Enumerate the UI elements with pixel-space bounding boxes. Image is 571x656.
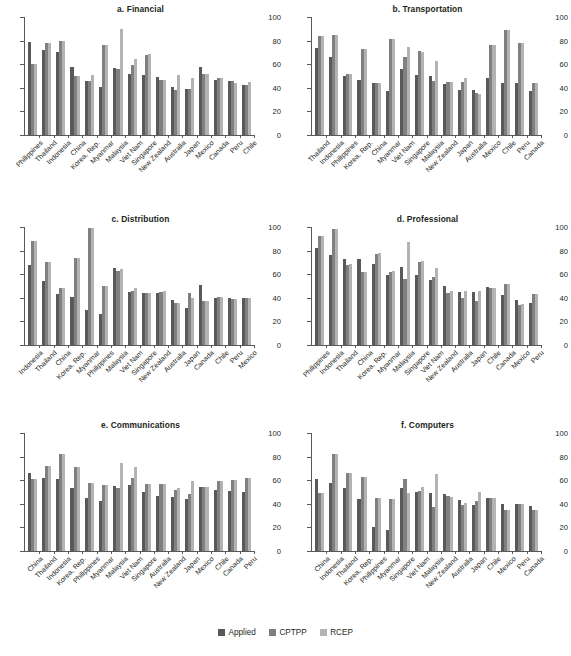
bar-rcep[interactable] [507, 30, 510, 135]
bar-group[interactable] [168, 227, 182, 345]
bar-group[interactable] [341, 433, 355, 551]
bar-group[interactable] [54, 433, 68, 551]
bar-rcep[interactable] [435, 268, 438, 345]
bar-rcep[interactable] [392, 499, 395, 551]
bar-rcep[interactable] [535, 294, 538, 345]
bar-group[interactable] [111, 17, 125, 135]
bar-group[interactable] [512, 17, 526, 135]
bar-rcep[interactable] [535, 510, 538, 551]
bar-rcep[interactable] [335, 454, 338, 551]
bar-rcep[interactable] [378, 498, 381, 551]
bar-rcep[interactable] [91, 75, 94, 135]
bar-group[interactable] [355, 433, 369, 551]
bar-rcep[interactable] [205, 74, 208, 135]
bar-rcep[interactable] [191, 298, 194, 345]
bar-group[interactable] [168, 17, 182, 135]
bar-rcep[interactable] [349, 473, 352, 551]
bar-group[interactable] [484, 227, 498, 345]
bar-rcep[interactable] [191, 481, 194, 551]
bar-rcep[interactable] [77, 467, 80, 551]
bar-rcep[interactable] [492, 498, 495, 551]
bar-group[interactable] [39, 433, 53, 551]
bar-rcep[interactable] [535, 83, 538, 135]
bar-group[interactable] [25, 433, 39, 551]
bar-group[interactable] [427, 433, 441, 551]
bar-rcep[interactable] [478, 94, 481, 135]
bar-group[interactable] [97, 433, 111, 551]
bar-group[interactable] [125, 433, 139, 551]
bar-rcep[interactable] [478, 492, 481, 551]
bar-rcep[interactable] [134, 467, 137, 551]
bar-rcep[interactable] [421, 52, 424, 135]
bar-group[interactable] [211, 227, 225, 345]
bar-rcep[interactable] [248, 82, 251, 135]
bar-rcep[interactable] [205, 487, 208, 551]
bar-rcep[interactable] [234, 480, 237, 551]
bar-group[interactable] [154, 227, 168, 345]
bar-group[interactable] [39, 17, 53, 135]
bar-rcep[interactable] [34, 241, 37, 345]
bar-group[interactable] [211, 17, 225, 135]
bar-group[interactable] [498, 227, 512, 345]
bar-rcep[interactable] [364, 49, 367, 135]
bar-rcep[interactable] [321, 36, 324, 135]
bar-group[interactable] [312, 17, 326, 135]
bar-rcep[interactable] [364, 272, 367, 345]
bar-group[interactable] [140, 433, 154, 551]
bar-group[interactable] [140, 17, 154, 135]
bar-group[interactable] [441, 227, 455, 345]
bar-rcep[interactable] [48, 466, 51, 551]
bar-rcep[interactable] [421, 261, 424, 345]
bar-rcep[interactable] [191, 78, 194, 135]
bar-rcep[interactable] [349, 74, 352, 135]
bar-rcep[interactable] [120, 463, 123, 552]
bar-group[interactable] [398, 433, 412, 551]
bar-rcep[interactable] [521, 43, 524, 135]
bar-group[interactable] [25, 17, 39, 135]
bar-group[interactable] [25, 227, 39, 345]
bar-group[interactable] [512, 227, 526, 345]
bar-group[interactable] [225, 433, 239, 551]
bar-group[interactable] [441, 17, 455, 135]
bar-group[interactable] [512, 433, 526, 551]
bar-group[interactable] [225, 227, 239, 345]
bar-group[interactable] [469, 433, 483, 551]
bar-group[interactable] [527, 227, 541, 345]
bar-group[interactable] [398, 17, 412, 135]
bar-rcep[interactable] [177, 303, 180, 345]
bar-rcep[interactable] [177, 488, 180, 551]
bar-rcep[interactable] [62, 288, 65, 345]
bar-group[interactable] [312, 433, 326, 551]
bar-rcep[interactable] [492, 288, 495, 345]
bar-group[interactable] [455, 433, 469, 551]
bar-rcep[interactable] [407, 47, 410, 136]
bar-rcep[interactable] [464, 503, 467, 551]
bar-group[interactable] [469, 17, 483, 135]
bar-group[interactable] [68, 17, 82, 135]
bar-rcep[interactable] [450, 497, 453, 551]
bar-rcep[interactable] [163, 484, 166, 551]
bar-rcep[interactable] [507, 510, 510, 551]
bar-rcep[interactable] [62, 41, 65, 135]
bar-rcep[interactable] [464, 78, 467, 135]
bar-group[interactable] [182, 17, 196, 135]
bar-rcep[interactable] [335, 229, 338, 345]
bar-rcep[interactable] [34, 64, 37, 135]
bar-rcep[interactable] [335, 35, 338, 135]
bar-group[interactable] [384, 433, 398, 551]
bar-rcep[interactable] [177, 75, 180, 135]
bar-group[interactable] [326, 227, 340, 345]
bar-group[interactable] [54, 17, 68, 135]
bar-rcep[interactable] [392, 39, 395, 135]
bar-group[interactable] [441, 433, 455, 551]
bar-group[interactable] [498, 433, 512, 551]
bar-rcep[interactable] [421, 487, 424, 551]
bar-group[interactable] [154, 433, 168, 551]
bar-rcep[interactable] [521, 304, 524, 345]
bar-rcep[interactable] [48, 43, 51, 135]
bar-group[interactable] [412, 433, 426, 551]
bar-group[interactable] [326, 17, 340, 135]
bar-group[interactable] [39, 227, 53, 345]
bar-rcep[interactable] [148, 54, 151, 135]
bar-group[interactable] [326, 433, 340, 551]
